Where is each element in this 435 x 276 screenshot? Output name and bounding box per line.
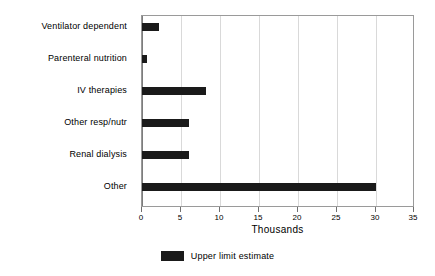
value-axis-line [142, 16, 143, 206]
category-label: Renal dialysis [0, 149, 127, 159]
category-label: IV therapies [0, 85, 127, 95]
x-axis-title: Thousands [141, 224, 414, 236]
x-axis-tick-label: 5 [168, 213, 192, 222]
legend-label: Upper limit estimate [191, 251, 275, 261]
x-axis-tick [336, 207, 337, 212]
bar [142, 55, 147, 63]
plot-area [141, 15, 414, 207]
gridline [376, 16, 377, 206]
x-axis-tick [219, 207, 220, 212]
bar [142, 183, 376, 191]
gridline [220, 16, 221, 206]
category-axis-labels: Ventilator dependent Parenteral nutritio… [0, 15, 134, 207]
category-label: Ventilator dependent [0, 21, 127, 31]
category-label: Other [0, 181, 127, 191]
gridline [298, 16, 299, 206]
x-axis-tick [413, 207, 414, 212]
category-label: Other resp/nutr [0, 117, 127, 127]
bar [142, 23, 159, 31]
gridline [259, 16, 260, 206]
x-axis-tick-label: 10 [207, 213, 231, 222]
bar-chart: Ventilator dependent Parenteral nutritio… [0, 0, 435, 276]
x-axis-tick-label: 35 [401, 213, 425, 222]
x-axis-tick [297, 207, 298, 212]
x-axis-tick-label: 0 [129, 213, 153, 222]
bar [142, 151, 189, 159]
x-axis-tick-label: 25 [324, 213, 348, 222]
bar [142, 87, 206, 95]
bar [142, 119, 189, 127]
x-axis-tick-label: 15 [246, 213, 270, 222]
x-axis-tick [258, 207, 259, 212]
x-axis-tick [180, 207, 181, 212]
x-axis-tick [375, 207, 376, 212]
legend-swatch [161, 251, 184, 261]
gridline [181, 16, 182, 206]
x-axis-tick-label: 30 [363, 213, 387, 222]
category-label: Parenteral nutrition [0, 53, 127, 63]
x-axis-tick [141, 207, 142, 212]
x-axis-tick-label: 20 [285, 213, 309, 222]
gridline [337, 16, 338, 206]
legend: Upper limit estimate [0, 251, 435, 261]
